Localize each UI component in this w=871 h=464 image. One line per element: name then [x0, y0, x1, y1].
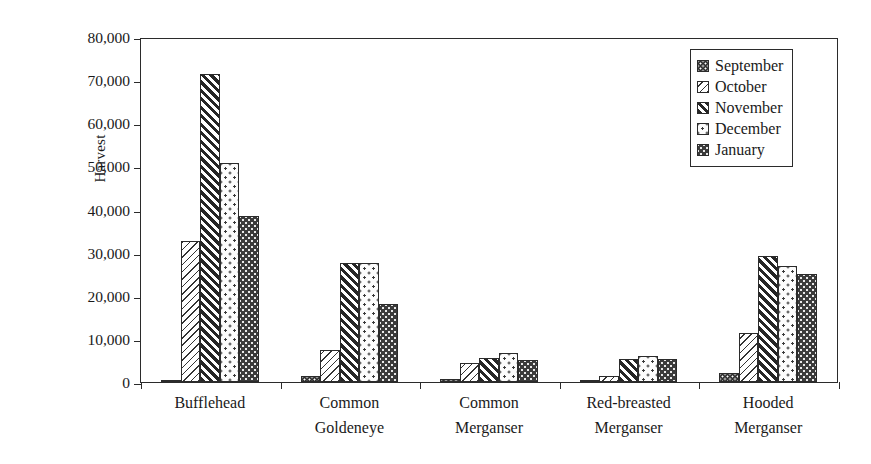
bar-red-breasted-merganser-october	[599, 376, 619, 382]
bar-common-merganser-january	[518, 360, 538, 382]
legend-item-label: September	[715, 58, 783, 74]
y-axis-tick-labels: 010,00020,00030,00040,00050,00060,00070,…	[56, 0, 130, 464]
y-tick-label: 80,000	[87, 30, 130, 46]
x-category-label: CommonMerganser	[419, 390, 559, 440]
bar-bufflehead-september	[161, 380, 181, 382]
bar-bufflehead-november	[200, 74, 220, 382]
bar-red-breasted-merganser-september	[580, 380, 600, 382]
y-tick-label: 30,000	[87, 246, 130, 262]
x-category-label-line2: Merganser	[559, 415, 699, 440]
bar-hooded-merganser-november	[758, 256, 778, 382]
y-tick-mark	[134, 341, 141, 342]
y-tick-mark	[134, 384, 141, 385]
x-tick-mark	[839, 382, 840, 389]
x-tick-mark	[281, 382, 282, 389]
bar-hooded-merganser-september	[719, 373, 739, 382]
y-tick-mark	[134, 82, 141, 83]
y-tick-label: 40,000	[87, 203, 130, 219]
x-category-label-line1: Common	[320, 394, 380, 411]
legend-swatch-icon	[697, 60, 709, 72]
bar-red-breasted-merganser-january	[658, 359, 678, 382]
x-category-label-line1: Common	[459, 394, 519, 411]
y-tick-mark	[134, 168, 141, 169]
x-tick-mark	[141, 382, 142, 389]
legend-item-label: December	[715, 121, 781, 137]
legend-swatch-icon	[697, 123, 709, 135]
x-tick-mark	[560, 382, 561, 389]
legend-item-january[interactable]: January	[697, 139, 783, 160]
y-tick-mark	[134, 298, 141, 299]
bar-hooded-merganser-october	[739, 333, 759, 382]
x-category-label-line1: Hooded	[743, 394, 794, 411]
bar-hooded-merganser-january	[797, 274, 817, 382]
legend-swatch-icon	[697, 102, 709, 114]
legend-item-october[interactable]: October	[697, 76, 783, 97]
legend-item-december[interactable]: December	[697, 118, 783, 139]
bar-common-goldeneye-december	[359, 263, 379, 382]
y-tick-label: 20,000	[87, 289, 130, 305]
x-category-label-line2: Merganser	[698, 415, 838, 440]
y-tick-mark	[134, 125, 141, 126]
legend-item-november[interactable]: November	[697, 97, 783, 118]
legend-item-september[interactable]: September	[697, 55, 783, 76]
bar-common-merganser-november	[479, 358, 499, 382]
y-tick-mark	[134, 39, 141, 40]
legend-item-label: October	[715, 79, 767, 95]
bar-common-goldeneye-september	[301, 376, 321, 382]
bar-common-merganser-october	[460, 363, 480, 382]
y-tick-label: 10,000	[87, 332, 130, 348]
legend: SeptemberOctoberNovemberDecemberJanuary	[690, 49, 793, 167]
x-category-label: Bufflehead	[140, 390, 280, 415]
y-tick-label: 70,000	[87, 73, 130, 89]
bar-bufflehead-january	[239, 216, 259, 382]
y-tick-label: 60,000	[87, 116, 130, 132]
bar-chart: Harvest 010,00020,00030,00040,00050,0006…	[0, 0, 871, 464]
y-tick-label: 0	[122, 375, 130, 391]
y-tick-label: 50,000	[87, 159, 130, 175]
bar-bufflehead-december	[220, 163, 240, 382]
x-category-label-line1: Red-breasted	[586, 394, 670, 411]
x-category-label: Red-breastedMerganser	[559, 390, 699, 440]
bar-common-goldeneye-january	[379, 304, 399, 382]
bar-common-goldeneye-november	[340, 263, 360, 382]
y-tick-mark	[134, 212, 141, 213]
legend-swatch-icon	[697, 81, 709, 93]
bar-common-goldeneye-october	[320, 350, 340, 382]
x-tick-mark	[420, 382, 421, 389]
x-category-label-line1: Bufflehead	[174, 394, 245, 411]
bar-red-breasted-merganser-november	[619, 359, 639, 382]
bar-common-merganser-december	[499, 353, 519, 382]
x-category-label: CommonGoldeneye	[280, 390, 420, 440]
x-tick-mark	[699, 382, 700, 389]
bar-bufflehead-october	[181, 241, 201, 382]
bar-common-merganser-september	[440, 379, 460, 382]
y-tick-mark	[134, 255, 141, 256]
x-category-label-line2: Merganser	[419, 415, 559, 440]
x-axis-category-labels: BuffleheadCommonGoldeneyeCommonMerganser…	[140, 390, 838, 460]
legend-item-label: January	[715, 142, 765, 158]
x-category-label-line2: Goldeneye	[280, 415, 420, 440]
bar-hooded-merganser-december	[778, 266, 798, 382]
legend-item-label: November	[715, 100, 783, 116]
bar-red-breasted-merganser-december	[638, 356, 658, 382]
legend-swatch-icon	[697, 144, 709, 156]
x-category-label: HoodedMerganser	[698, 390, 838, 440]
